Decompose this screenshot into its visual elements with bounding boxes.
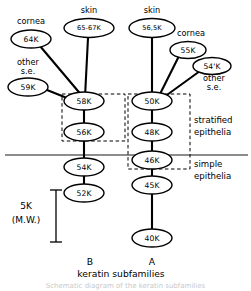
node-54k[interactable]: 54K: [64, 158, 104, 176]
node-cornea-55k[interactable]: 55K: [170, 42, 206, 59]
label-stratified-line2: epithelia: [194, 127, 231, 137]
node-label: 64K: [24, 35, 40, 44]
node-label: 54'K: [203, 62, 221, 71]
node-skin-56-5k[interactable]: 56,5K: [129, 19, 175, 38]
edge-skin6567-to-58k: [85, 38, 88, 97]
node-other-se-54-prime-k[interactable]: 54'K: [193, 58, 231, 75]
node-40k[interactable]: 40K: [132, 229, 172, 247]
label-other-se-right-line2: s.e.: [207, 82, 222, 92]
label-cornea-right: cornea: [177, 28, 205, 38]
node-45k[interactable]: 45K: [132, 176, 172, 194]
label-simple-line2: epithelia: [194, 171, 231, 181]
node-label: 45K: [145, 181, 161, 190]
node-52k[interactable]: 52K: [64, 184, 104, 202]
label-skin-left: skin: [81, 5, 97, 15]
node-label: 58K: [77, 97, 93, 106]
panel-label-a: A: [149, 256, 156, 267]
node-label: 54K: [77, 163, 93, 172]
node-label: 59K: [21, 83, 37, 92]
edge-cornea55-to-50k: [158, 58, 178, 98]
node-50k[interactable]: 50K: [132, 92, 172, 110]
node-58k[interactable]: 58K: [64, 92, 104, 110]
node-label: 48K: [145, 128, 161, 137]
node-label: 52K: [77, 189, 93, 198]
panel-label-b: B: [87, 256, 93, 267]
node-label: 65-67K: [77, 24, 102, 32]
label-other-se-left-line2: s.e.: [21, 66, 36, 76]
node-48k[interactable]: 48K: [132, 123, 172, 141]
node-cornea-64k[interactable]: 64K: [11, 30, 51, 48]
node-other-se-59k[interactable]: 59K: [8, 78, 48, 96]
node-label: 40K: [145, 234, 161, 243]
label-skin-right: skin: [144, 5, 160, 15]
node-label: 56,5K: [142, 24, 162, 32]
diagram-canvas: 64K 65-67K 59K 58K 56K 54K 52K: [0, 0, 251, 291]
node-56k[interactable]: 56K: [64, 123, 104, 141]
caption-fragment: Schematic diagram of the keratin subfami…: [0, 281, 251, 291]
keratin-subfamily-diagram: 64K 65-67K 59K 58K 56K 54K 52K: [0, 0, 251, 291]
label-simple-line1: simple: [194, 159, 222, 169]
node-label: 46K: [145, 156, 161, 165]
node-skin-65-67k[interactable]: 65-67K: [64, 19, 114, 38]
label-scale-unit: (M.W.): [12, 215, 40, 225]
node-46k[interactable]: 46K: [132, 151, 172, 169]
label-scale-value: 5K: [20, 201, 33, 211]
label-stratified-line1: stratified: [194, 115, 233, 125]
figure-caption: keratin subfamilies: [77, 268, 165, 279]
label-cornea-left: cornea: [17, 16, 45, 26]
node-label: 50K: [145, 97, 161, 106]
node-label: 55K: [181, 46, 197, 55]
node-label: 56K: [77, 128, 93, 137]
scale-bar: [50, 190, 62, 242]
